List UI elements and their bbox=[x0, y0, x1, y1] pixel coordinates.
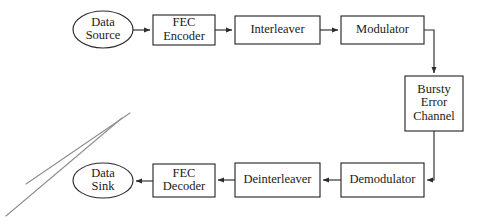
node-demodulator: Demodulator bbox=[341, 163, 424, 197]
node-fec-encoder: FECEncoder bbox=[153, 15, 215, 45]
node-layer: DataSourceFECEncoderInterleaverModulator… bbox=[73, 11, 463, 198]
data-sink-label: Data bbox=[91, 166, 115, 180]
fec-encoder-label: FEC bbox=[173, 15, 196, 29]
node-data-source: DataSource bbox=[73, 11, 133, 48]
node-bursty-error-channel: BurstyErrorChannel bbox=[405, 76, 463, 131]
bursty-error-channel-label: Bursty bbox=[417, 82, 451, 96]
data-source-label: Source bbox=[86, 28, 121, 42]
node-deinterleaver: Deinterleaver bbox=[235, 163, 320, 197]
deinterleaver-label: Deinterleaver bbox=[243, 172, 312, 186]
demodulator-label: Demodulator bbox=[350, 172, 417, 186]
connector-layer bbox=[133, 30, 434, 181]
diagram-canvas: DataSourceFECEncoderInterleaverModulator… bbox=[0, 0, 481, 222]
data-sink-label: Sink bbox=[92, 179, 116, 193]
fec-encoder-label: Encoder bbox=[163, 29, 205, 43]
block-diagram: DataSourceFECEncoderInterleaverModulator… bbox=[0, 0, 481, 222]
node-modulator: Modulator bbox=[341, 16, 424, 44]
interleaver-label: Interleaver bbox=[250, 22, 305, 36]
edge-channel-to-demodulator bbox=[427, 131, 434, 180]
node-interleaver: Interleaver bbox=[235, 16, 320, 44]
bursty-error-channel-label: Error bbox=[421, 95, 448, 109]
edge-modulator-to-channel bbox=[424, 30, 434, 73]
node-data-sink: DataSink bbox=[73, 163, 133, 198]
fec-decoder-label: FEC bbox=[173, 166, 196, 180]
data-source-label: Data bbox=[91, 15, 115, 29]
fec-decoder-label: Decoder bbox=[163, 179, 206, 193]
bursty-error-channel-label: Channel bbox=[413, 109, 455, 123]
modulator-label: Modulator bbox=[356, 22, 410, 36]
node-fec-decoder: FECDecoder bbox=[153, 164, 215, 197]
